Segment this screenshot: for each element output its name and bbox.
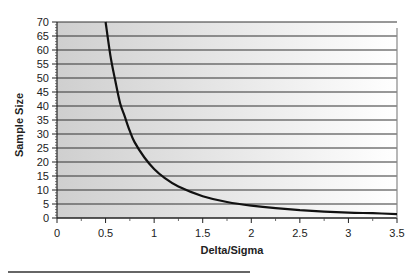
y-tick-label: 45	[37, 86, 49, 98]
x-axis-ticks: 00.511.522.533.5	[54, 218, 405, 239]
y-tick-label: 20	[37, 156, 49, 168]
y-tick-label: 10	[37, 184, 49, 196]
x-tick-label: 1.5	[195, 227, 210, 239]
y-tick-label: 15	[37, 170, 49, 182]
y-tick-label: 0	[43, 212, 49, 224]
x-tick-label: 0.5	[98, 227, 113, 239]
x-tick-label: 2	[248, 227, 254, 239]
x-axis-title: Delta/Sigma	[201, 244, 265, 256]
y-tick-label: 50	[37, 72, 49, 84]
y-tick-label: 40	[37, 100, 49, 112]
x-tick-label: 2.5	[292, 227, 307, 239]
y-tick-label: 30	[37, 128, 49, 140]
y-axis-ticks: 0510152025303540455055606570	[37, 16, 57, 224]
x-tick-label: 3.5	[389, 227, 404, 239]
y-tick-label: 55	[37, 58, 49, 70]
y-tick-label: 60	[37, 44, 49, 56]
y-tick-label: 35	[37, 114, 49, 126]
x-tick-label: 1	[151, 227, 157, 239]
x-tick-label: 3	[345, 227, 351, 239]
y-tick-label: 25	[37, 142, 49, 154]
y-tick-label: 5	[43, 198, 49, 210]
y-axis-title: Sample Size	[13, 93, 25, 157]
y-tick-label: 70	[37, 16, 49, 28]
y-tick-label: 65	[37, 30, 49, 42]
sample-size-chart: 0510152025303540455055606570 00.511.522.…	[0, 0, 419, 275]
x-tick-label: 0	[54, 227, 60, 239]
